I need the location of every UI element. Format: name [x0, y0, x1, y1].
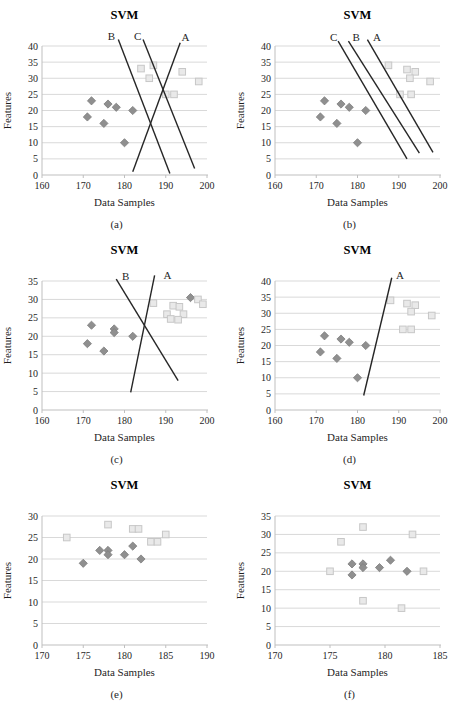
subplot-b-caption: (b) [233, 218, 466, 230]
chart-title: SVM [344, 478, 372, 492]
diamond-marker [337, 100, 345, 108]
y-tick-label: 40 [261, 276, 271, 287]
y-tick-label: 15 [261, 121, 271, 132]
y-tick-label: 40 [28, 41, 38, 52]
square-marker [171, 91, 178, 98]
diamond-marker [137, 555, 145, 563]
x-tick-label: 185 [158, 650, 173, 661]
square-marker [428, 312, 435, 319]
x-tick-label: 200 [433, 180, 448, 191]
y-tick-label: 15 [261, 356, 271, 367]
x-tick-label: 160 [268, 415, 283, 426]
y-tick-label: 25 [261, 89, 271, 100]
y-axis-label: Features [234, 92, 246, 129]
x-tick-label: 200 [200, 180, 215, 191]
y-tick-label: 0 [33, 405, 38, 416]
x-tick-label: 190 [158, 415, 173, 426]
y-tick-label: 35 [28, 276, 38, 287]
y-tick-label: 10 [28, 597, 38, 608]
x-tick-label: 160 [35, 415, 50, 426]
y-tick-label: 5 [266, 621, 271, 632]
square-marker [135, 526, 142, 533]
y-tick-label: 35 [261, 292, 271, 303]
subplot-d-chart: 1601701801902000510152025303540ASVMData … [233, 235, 466, 470]
diamond-marker [83, 340, 91, 348]
y-tick-label: 0 [33, 170, 38, 181]
y-tick-label: 20 [261, 105, 271, 116]
y-tick-label: 30 [28, 511, 38, 522]
square-marker [427, 78, 434, 85]
x-tick-label: 170 [35, 650, 50, 661]
separator-line-c [338, 41, 407, 159]
diamond-marker [337, 335, 345, 343]
y-tick-label: 10 [261, 372, 271, 383]
diamond-marker [79, 559, 87, 567]
square-marker [420, 568, 427, 575]
x-axis-label: Data Samples [327, 666, 388, 678]
square-marker [387, 297, 394, 304]
x-tick-label: 170 [268, 650, 283, 661]
x-tick-label: 190 [200, 650, 215, 661]
square-marker [408, 308, 415, 315]
y-tick-label: 0 [266, 405, 271, 416]
square-marker [408, 326, 415, 333]
y-tick-label: 35 [28, 57, 38, 68]
square-marker [195, 78, 202, 85]
square-marker [398, 605, 405, 612]
diamond-marker [353, 374, 361, 382]
chart-title: SVM [344, 243, 372, 257]
x-tick-label: 170 [309, 180, 324, 191]
square-marker [138, 65, 145, 72]
x-axis-label: Data Samples [94, 196, 155, 208]
diamond-marker [386, 556, 394, 564]
square-marker [200, 301, 207, 308]
y-tick-label: 0 [266, 170, 271, 181]
diamond-marker [316, 113, 324, 121]
y-tick-label: 5 [266, 153, 271, 164]
diamond-marker [186, 293, 194, 301]
x-axis-label: Data Samples [94, 431, 155, 443]
subplot-d: 1601701801902000510152025303540ASVMData … [233, 235, 466, 470]
y-tick-label: 30 [261, 73, 271, 84]
square-marker [148, 539, 155, 546]
square-marker [327, 568, 334, 575]
x-axis-label: Data Samples [94, 666, 155, 678]
y-tick-label: 10 [261, 603, 271, 614]
y-tick-label: 30 [28, 73, 38, 84]
x-tick-label: 160 [35, 180, 50, 191]
y-tick-label: 5 [33, 386, 38, 397]
square-marker [360, 597, 367, 604]
square-marker [400, 326, 407, 333]
x-tick-label: 170 [309, 415, 324, 426]
x-tick-label: 190 [158, 180, 173, 191]
separator-label-a: A [182, 31, 190, 43]
x-tick-label: 170 [76, 415, 91, 426]
subplot-e: 170175180185190051015202530SVMData Sampl… [0, 470, 233, 705]
square-marker [385, 62, 392, 69]
y-tick-label: 5 [33, 153, 38, 164]
y-tick-label: 15 [28, 349, 38, 360]
diamond-marker [96, 546, 104, 554]
y-tick-label: 35 [261, 57, 271, 68]
square-marker [176, 304, 183, 311]
y-tick-label: 30 [261, 308, 271, 319]
square-marker [105, 521, 112, 528]
x-axis-label: Data Samples [327, 431, 388, 443]
x-tick-label: 185 [433, 650, 448, 661]
diamond-marker [362, 341, 370, 349]
subplot-e-chart: 170175180185190051015202530SVMData Sampl… [0, 470, 233, 705]
subplot-c-caption: (c) [0, 453, 233, 465]
x-tick-label: 180 [378, 650, 393, 661]
y-tick-label: 25 [28, 312, 38, 323]
chart-title: SVM [344, 8, 372, 22]
y-axis-label: Features [1, 562, 13, 599]
y-tick-label: 20 [28, 554, 38, 565]
y-tick-label: 25 [28, 89, 38, 100]
x-tick-label: 170 [76, 180, 91, 191]
x-tick-label: 190 [391, 415, 406, 426]
square-marker [404, 66, 411, 73]
x-tick-label: 175 [323, 650, 338, 661]
x-tick-label: 190 [391, 180, 406, 191]
separator-label-c: C [134, 30, 141, 42]
diamond-marker [100, 347, 108, 355]
